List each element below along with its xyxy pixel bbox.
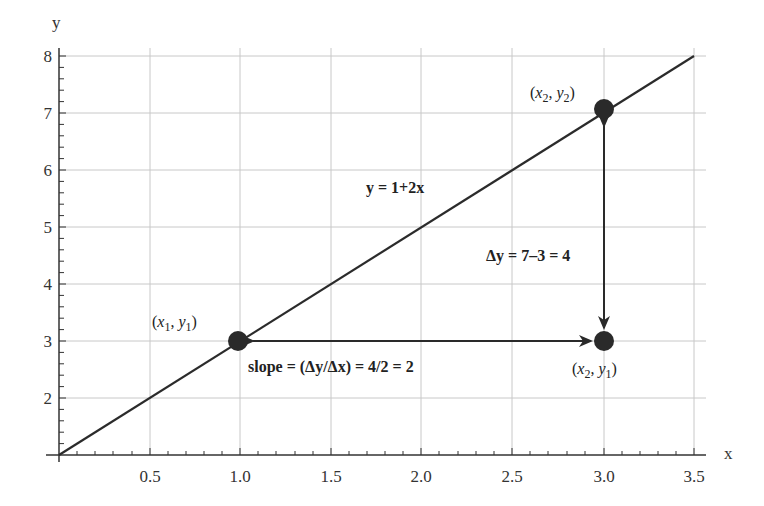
y-tick-label: 7 xyxy=(44,104,53,123)
slope-label: slope = (Δy/Δx) = 4/2 = 2 xyxy=(248,358,414,376)
x-ticks xyxy=(77,448,694,455)
point-x2-y1 xyxy=(594,331,614,351)
y-tick-label: 6 xyxy=(44,161,53,180)
y-tick-label: 4 xyxy=(44,275,53,294)
y-ticks xyxy=(59,56,66,444)
y-tick-label: 3 xyxy=(44,332,53,351)
x-tick-label: 0.5 xyxy=(139,467,160,486)
line-equation-label: y = 1+2x xyxy=(366,179,424,197)
x-tick-label: 1.5 xyxy=(320,467,341,486)
point-label-x2-y1: (x2, y1) xyxy=(572,360,617,381)
y-tick-label: 8 xyxy=(44,47,53,66)
chart: 0.5 1.0 1.5 2.0 2.5 3.0 3.5 2 3 4 5 6 7 … xyxy=(0,0,764,506)
x-axis-label: x xyxy=(724,444,733,463)
point-x1-y1 xyxy=(228,331,248,351)
y-tick-labels: 2 3 4 5 6 7 8 xyxy=(44,47,53,408)
point-label-x2-y2: (x2, y2) xyxy=(530,84,575,105)
point-label-x1-y1: (x1, y1) xyxy=(152,313,197,334)
x-tick-labels: 0.5 1.0 1.5 2.0 2.5 3.0 3.5 xyxy=(139,467,704,486)
x-tick-label: 3.5 xyxy=(683,467,704,486)
x-tick-label: 2.0 xyxy=(410,467,431,486)
y-tick-label: 2 xyxy=(44,389,53,408)
delta-y-label: Δy = 7–3 = 4 xyxy=(486,247,570,265)
point-x2-y2 xyxy=(594,99,614,119)
y-tick-label: 5 xyxy=(44,218,53,237)
x-tick-label: 2.5 xyxy=(501,467,522,486)
x-tick-label: 1.0 xyxy=(229,467,250,486)
x-tick-label: 3.0 xyxy=(593,467,614,486)
y-axis-label: y xyxy=(52,13,61,32)
